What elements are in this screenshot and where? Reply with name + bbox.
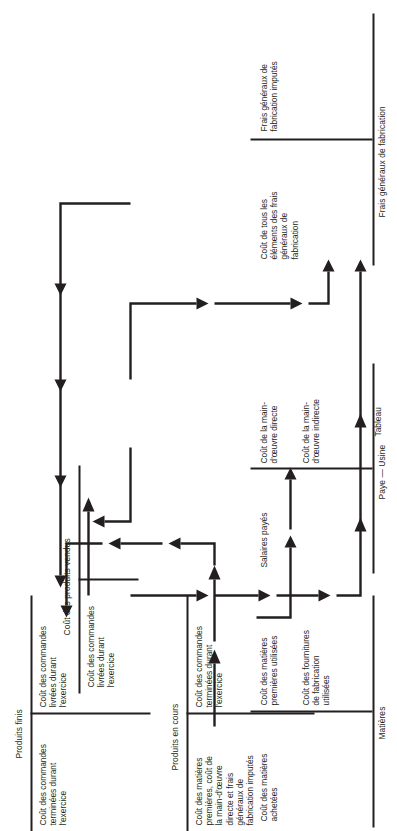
account-title-cout-des-produits-vendus: Coût des produits vendus xyxy=(61,538,71,635)
entry-produits-en-cours-credit: Coût des commandes terminées durant l'ex… xyxy=(193,599,224,707)
flow-matieres-fournitures-to-frais-generaux xyxy=(130,259,366,601)
entry-produits-finis-debit: Coût des commandes terminées durant l'ex… xyxy=(37,717,68,825)
taccount-center-divider xyxy=(186,712,314,714)
figure-page: Produits finis Coût des commandes termin… xyxy=(0,0,397,831)
account-title-produits-finis: Produits finis xyxy=(13,709,23,758)
flowchart-canvas: Produits finis Coût des commandes termin… xyxy=(0,0,397,831)
entry-produits-en-cours-debit: Coût des matières premières, coût de la … xyxy=(193,717,254,825)
figure-caption: Tableau xyxy=(372,407,382,436)
entry-cout-des-produits-vendus-debit: Coût des commandes livrées durant l'exer… xyxy=(85,581,116,687)
taccount-center-divider xyxy=(30,712,150,714)
account-title-produits-en-cours: Produits en cours xyxy=(169,703,179,770)
flow-paye-indirecte-to-frais-generaux xyxy=(130,259,334,379)
taccount-center-divider xyxy=(78,578,138,580)
